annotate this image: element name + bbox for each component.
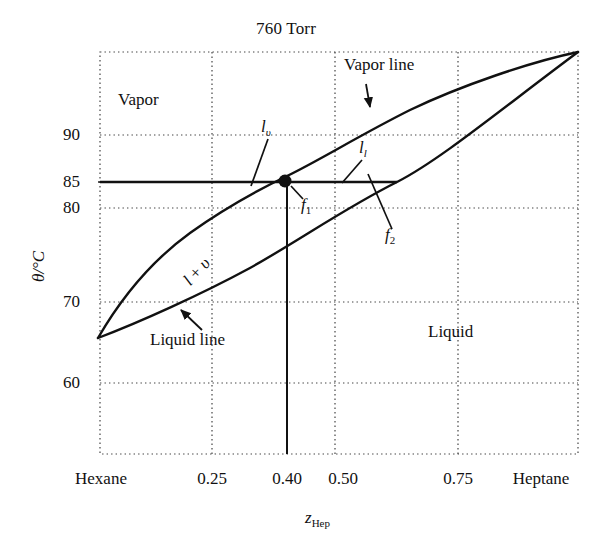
- x-axis-title: zHep: [305, 509, 330, 529]
- annotation-f2-sub: 2: [390, 234, 396, 246]
- phase-diagram-figure: 760 Torr 90 85 80 70 60 θ/°C Hexane 0.25…: [0, 0, 594, 551]
- arrow-vapor-line: [366, 84, 370, 107]
- y-tick-label-90: 90: [42, 126, 80, 143]
- x-tick-label-heptane: Heptane: [498, 470, 584, 487]
- annotation-f2: f2: [385, 226, 395, 246]
- annotation-f1-sub: 1: [306, 204, 312, 216]
- annotation-ll-sub: l: [364, 147, 367, 159]
- vapor-line-curve: [98, 52, 578, 338]
- x-axis-title-base: z: [305, 508, 312, 527]
- chart-title: 760 Torr: [256, 20, 316, 37]
- annotation-f1: f1: [301, 196, 311, 216]
- y-axis-title: θ/°C: [30, 251, 47, 282]
- leader-line-ll: [342, 160, 362, 183]
- x-tick-label-025: 0.25: [182, 470, 242, 487]
- liquid-line-curve: [98, 52, 578, 338]
- annotation-ll: ll: [359, 139, 367, 159]
- annotation-liquid-line: Liquid line: [150, 331, 225, 348]
- arrow-liquid-line: [181, 310, 202, 330]
- region-label-liquid: Liquid: [428, 323, 473, 340]
- leader-line-lv: [251, 139, 268, 186]
- annotation-lv: lυ: [261, 118, 271, 138]
- y-tick-label-70: 70: [42, 293, 80, 310]
- y-tick-label-60: 60: [42, 374, 80, 391]
- x-gridlines: [212, 52, 458, 454]
- plot-frame: [100, 52, 578, 454]
- region-label-vapor: Vapor: [118, 91, 159, 108]
- annotation-vapor-line: Vapor line: [344, 56, 414, 73]
- x-axis-title-sub: Hep: [312, 517, 330, 529]
- y-tick-label-80: 80: [42, 199, 80, 216]
- x-tick-label-hexane: Hexane: [61, 470, 141, 487]
- x-tick-label-050: 0.50: [313, 470, 373, 487]
- x-tick-label-040: 0.40: [257, 470, 317, 487]
- annotation-lv-sub: υ: [266, 126, 271, 138]
- state-point-f1: [279, 175, 292, 188]
- y-tick-label-85: 85: [42, 173, 80, 190]
- x-tick-label-075: 0.75: [428, 470, 488, 487]
